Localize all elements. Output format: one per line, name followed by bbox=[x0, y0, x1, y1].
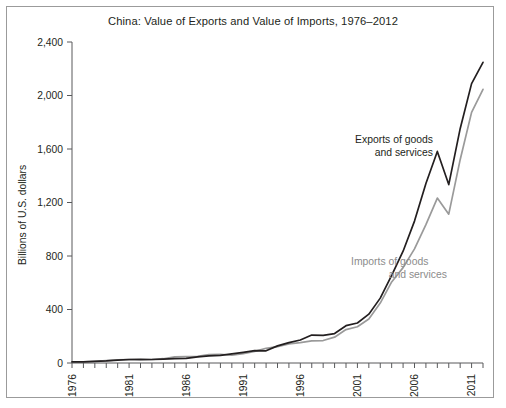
y-tick-label: 2,000 bbox=[37, 90, 63, 101]
x-tick-label: 2001 bbox=[352, 374, 363, 397]
chart-figure: China: Value of Exports and Value of Imp… bbox=[0, 0, 506, 408]
svg-text:Exports of goods: Exports of goods bbox=[355, 134, 433, 145]
x-tick-label: 1981 bbox=[124, 374, 135, 397]
series-line-exports bbox=[72, 62, 483, 362]
y-tick-label: 0 bbox=[57, 358, 63, 369]
y-axis-title: Billions of U.S. dollars bbox=[17, 165, 28, 265]
svg-text:Imports of goods: Imports of goods bbox=[351, 256, 428, 267]
y-axis-ticks: 04008001,2001,6002,0002,400 bbox=[37, 37, 72, 369]
x-tick-label: 2011 bbox=[466, 374, 477, 396]
series-line-imports bbox=[72, 89, 483, 362]
svg-text:and services: and services bbox=[375, 147, 433, 158]
x-tick-label: 1986 bbox=[181, 374, 192, 397]
y-tick-label: 2,400 bbox=[37, 37, 63, 48]
y-tick-label: 1,600 bbox=[37, 144, 63, 155]
x-axis-tick-labels: 19761981198619911996200120062011 bbox=[67, 374, 478, 397]
y-tick-label: 800 bbox=[46, 251, 63, 262]
x-tick-label: 1996 bbox=[295, 374, 306, 397]
series-label-exports: Exports of goods and services bbox=[355, 134, 433, 158]
svg-text:and services: and services bbox=[389, 269, 447, 280]
x-axis-ticks bbox=[72, 363, 483, 368]
y-tick-label: 400 bbox=[46, 304, 63, 315]
y-tick-label: 1,200 bbox=[37, 197, 63, 208]
x-tick-label: 1991 bbox=[238, 374, 249, 397]
x-tick-label: 2006 bbox=[409, 374, 420, 397]
series-label-imports: Imports of goods and services bbox=[351, 256, 447, 280]
x-tick-label: 1976 bbox=[67, 374, 78, 397]
chart-plot-area: Billions of U.S. dollars 04008001,2001,6… bbox=[0, 0, 506, 408]
